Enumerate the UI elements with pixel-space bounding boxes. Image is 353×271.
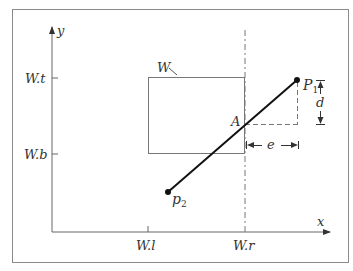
dim-e-right-arrow	[291, 142, 298, 148]
label-p1: P1	[302, 77, 318, 95]
label-p1-main: P	[302, 77, 313, 93]
label-p2: p2	[172, 191, 187, 209]
label-p2-sub: 2	[181, 199, 187, 209]
dim-d-label: d	[316, 95, 324, 110]
label-p1-sub: 1	[312, 85, 318, 95]
line-segment	[168, 80, 297, 192]
tick-label-w-r: W.r	[233, 238, 255, 253]
dim-d-up-arrow	[318, 81, 324, 88]
dim-e-label: e	[267, 137, 275, 152]
tick-label-w-t: W.t	[25, 71, 46, 86]
point-p2	[165, 189, 171, 195]
dim-e-left-arrow	[247, 142, 254, 148]
label-a: A	[230, 114, 240, 129]
outer-frame	[13, 10, 349, 263]
tick-label-w-l: W.l	[136, 238, 155, 253]
window-label: W	[157, 60, 172, 75]
clipping-diagram: y x W.t W.b W.l W.r W P1 p2 A d e	[0, 0, 353, 271]
y-axis-label: y	[56, 23, 65, 38]
point-p1	[294, 77, 300, 83]
x-axis-label: x	[317, 214, 325, 229]
dim-d-down-arrow	[318, 117, 324, 124]
tick-label-w-b: W.b	[24, 147, 48, 162]
label-p2-main: p	[172, 191, 181, 207]
